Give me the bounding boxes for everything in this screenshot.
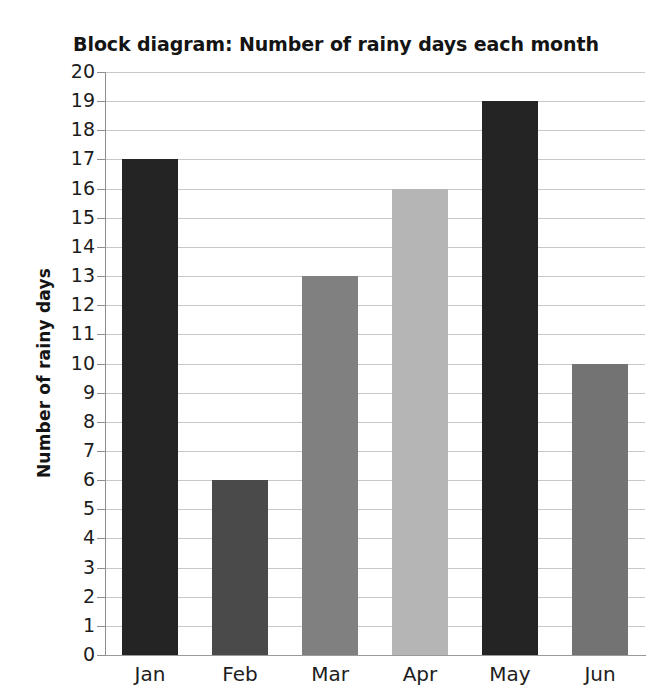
y-axis-tick	[97, 72, 106, 73]
y-axis-tick-label: 6	[9, 470, 95, 489]
y-axis-tick-label: 8	[9, 412, 95, 431]
y-axis-tick-labels: 01234567891011121314151617181920	[0, 0, 95, 691]
y-axis-tick-label: 18	[9, 120, 95, 139]
y-axis-tick	[97, 480, 106, 481]
y-axis-tick	[97, 305, 106, 306]
y-axis-tick-label: 3	[9, 558, 95, 577]
x-axis-tick-label: Jan	[105, 661, 195, 687]
gridline	[105, 568, 645, 569]
y-axis-tick	[97, 655, 106, 656]
y-axis-tick-label: 4	[9, 528, 95, 547]
y-axis-tick-label: 9	[9, 383, 95, 402]
y-axis-tick-label: 5	[9, 499, 95, 518]
x-axis-tick-label: Jun	[555, 661, 645, 687]
gridline	[105, 364, 645, 365]
y-axis-tick-label: 1	[9, 616, 95, 635]
y-axis-tick	[97, 538, 106, 539]
y-axis-tick	[97, 509, 106, 510]
bar-chart: Block diagram: Number of rainy days each…	[0, 0, 672, 691]
gridline	[105, 451, 645, 452]
gridline	[105, 480, 645, 481]
gridline	[105, 247, 645, 248]
gridline	[105, 626, 645, 627]
y-axis-tick	[97, 451, 106, 452]
gridline	[105, 334, 645, 335]
y-axis-tick-label: 17	[9, 149, 95, 168]
bar-mar	[302, 276, 358, 655]
y-axis-tick-label: 12	[9, 295, 95, 314]
y-axis-tick-label: 20	[9, 62, 95, 81]
bar-may	[482, 101, 538, 655]
y-axis-tick	[97, 597, 106, 598]
bar-jun	[572, 364, 628, 656]
gridline	[105, 422, 645, 423]
plot-area	[105, 72, 645, 655]
gridline	[105, 393, 645, 394]
gridline	[105, 305, 645, 306]
y-axis-tick-label: 19	[9, 91, 95, 110]
gridline	[105, 72, 645, 73]
bar-feb	[212, 480, 268, 655]
gridline	[105, 538, 645, 539]
y-axis-tick-label: 10	[9, 354, 95, 373]
gridline	[105, 509, 645, 510]
y-axis-tick-label: 7	[9, 441, 95, 460]
gridline	[105, 655, 645, 656]
y-axis-tick	[97, 130, 106, 131]
y-axis-tick	[97, 364, 106, 365]
y-axis-tick	[97, 568, 106, 569]
gridline	[105, 218, 645, 219]
y-axis-tick	[97, 276, 106, 277]
x-axis-tick-label: Apr	[375, 661, 465, 687]
y-axis-tick	[97, 334, 106, 335]
y-axis-tick-label: 14	[9, 237, 95, 256]
y-axis-tick	[97, 247, 106, 248]
x-axis-tick-label: Mar	[285, 661, 375, 687]
y-axis-tick-label: 16	[9, 179, 95, 198]
y-axis-tick	[97, 393, 106, 394]
gridline	[105, 159, 645, 160]
y-axis-tick-label: 11	[9, 324, 95, 343]
gridline	[105, 597, 645, 598]
y-axis-tick-label: 0	[9, 645, 95, 664]
bar-jan	[122, 159, 178, 655]
y-axis-tick-label: 13	[9, 266, 95, 285]
gridline	[105, 101, 645, 102]
bar-apr	[392, 189, 448, 655]
y-axis-tick	[97, 626, 106, 627]
y-axis-tick	[97, 189, 106, 190]
y-axis-tick	[97, 159, 106, 160]
x-axis-tick-label: Feb	[195, 661, 285, 687]
chart-title: Block diagram: Number of rainy days each…	[0, 33, 672, 55]
y-axis-tick	[97, 422, 106, 423]
gridline	[105, 189, 645, 190]
x-axis-tick-label: May	[465, 661, 555, 687]
y-axis-tick-label: 2	[9, 587, 95, 606]
gridline	[105, 130, 645, 131]
y-axis-tick	[97, 218, 106, 219]
gridline	[105, 276, 645, 277]
y-axis-tick	[97, 101, 106, 102]
y-axis-tick-label: 15	[9, 208, 95, 227]
